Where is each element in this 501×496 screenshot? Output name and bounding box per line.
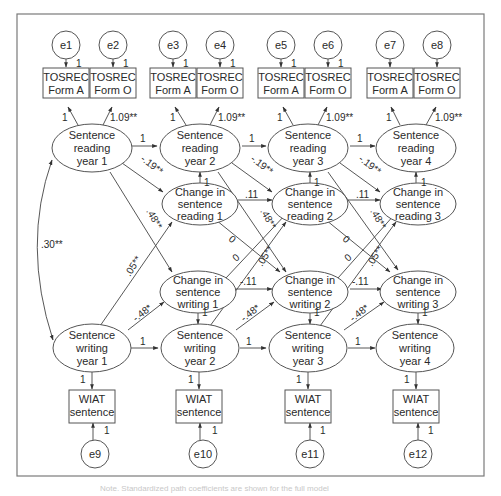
svg-text:reading 2: reading 2 (287, 210, 333, 222)
svg-text:year 3: year 3 (293, 155, 324, 167)
svg-text:1: 1 (296, 374, 302, 385)
sentence-writing-year-3[interactable]: Sentencewritingyear 3 (269, 324, 347, 372)
svg-text:writing: writing (398, 342, 431, 354)
error-node-e3[interactable]: e3 (159, 31, 187, 59)
error-node-e12[interactable]: e12 (404, 440, 432, 468)
error-node-e5[interactable]: e5 (267, 31, 295, 59)
sentence-reading-year-1[interactable]: Sentencereadingyear 1 (52, 124, 132, 172)
sentence-writing-year-2[interactable]: Sentencewritingyear 2 (161, 324, 239, 372)
svg-text:e3: e3 (167, 39, 179, 51)
svg-text:writing 3: writing 3 (397, 298, 439, 310)
svg-text:1: 1 (80, 374, 86, 385)
change-in-sentence-reading-3[interactable]: Change insentencereading 3 (380, 183, 456, 225)
svg-text:Form O: Form O (418, 84, 456, 96)
error-node-e6[interactable]: e6 (314, 31, 342, 59)
error-node-e9[interactable]: e9 (81, 440, 109, 468)
svg-text:1: 1 (62, 112, 68, 123)
svg-text:Form A: Form A (372, 84, 408, 96)
tosrec-box-3[interactable]: TOSRECForm A (150, 68, 196, 98)
tosrec-box-4[interactable]: TOSRECForm O (197, 68, 243, 98)
svg-text:1: 1 (202, 307, 208, 318)
change-in-sentence-writing-3[interactable]: Change insentencewriting 3 (380, 271, 456, 313)
svg-text:Change in: Change in (393, 186, 443, 198)
bottom-error-terms: e9 e10 e11 e12 (81, 440, 432, 468)
change-in-sentence-writing-2[interactable]: Change insentencewriting 2 (272, 271, 348, 313)
svg-text:1: 1 (386, 112, 392, 123)
svg-text:1: 1 (246, 336, 252, 347)
svg-text:writing: writing (291, 342, 324, 354)
error-node-e1[interactable]: e1 (52, 31, 80, 59)
wiat-box-4[interactable]: WIATsentence (393, 390, 439, 423)
sentence-writing-year-4[interactable]: Sentencewritingyear 4 (376, 324, 454, 372)
svg-text:sentence: sentence (177, 406, 222, 418)
error-node-e4[interactable]: e4 (206, 31, 234, 59)
svg-text:e1: e1 (60, 39, 72, 51)
svg-text:sentence: sentence (288, 198, 333, 210)
tosrec-box-2[interactable]: TOSRECForm O (90, 68, 136, 98)
svg-text:writing: writing (183, 342, 216, 354)
svg-text:1: 1 (314, 177, 320, 188)
figure-caption: Note. Standardized path coefficients are… (100, 484, 500, 494)
svg-text:e2: e2 (107, 39, 119, 51)
change-in-sentence-reading-2[interactable]: Change insentencereading 2 (272, 183, 348, 225)
svg-text:e4: e4 (214, 39, 226, 51)
error-loading-labels: 1 1 1 1 1 1 (76, 58, 344, 69)
tosrec-box-7[interactable]: TOSRECForm A (367, 68, 413, 98)
svg-text:1: 1 (277, 112, 283, 123)
error-node-e10[interactable]: e10 (189, 440, 217, 468)
svg-text:1: 1 (140, 133, 146, 144)
tosrec-box-5[interactable]: TOSRECForm A (258, 68, 304, 98)
svg-text:1: 1 (212, 425, 218, 436)
svg-text:year 2: year 2 (185, 355, 216, 367)
svg-text:year 1: year 1 (77, 355, 108, 367)
svg-text:-.48*: -.48* (238, 302, 262, 324)
sentence-reading-year-2[interactable]: Sentencereadingyear 2 (160, 124, 240, 172)
svg-text:Sentence: Sentence (69, 129, 115, 141)
svg-text:0: 0 (341, 233, 353, 245)
svg-text:Change in: Change in (393, 274, 443, 286)
svg-text:sentence: sentence (396, 286, 441, 298)
tosrec-box-8[interactable]: TOSRECForm O (414, 68, 460, 98)
svg-text:TOSREC: TOSREC (150, 71, 196, 83)
svg-text:e8: e8 (431, 39, 443, 51)
sentence-reading-year-3[interactable]: Sentencereadingyear 3 (268, 124, 348, 172)
wiat-box-2[interactable]: WIATsentence (176, 390, 222, 423)
svg-text:1.09**: 1.09** (326, 112, 353, 123)
svg-text:1: 1 (428, 425, 434, 436)
error-node-e11[interactable]: e11 (296, 440, 324, 468)
svg-text:Change in: Change in (175, 186, 225, 198)
change-in-sentence-reading-1[interactable]: Change insentencereading 1 (162, 183, 238, 225)
sentence-reading-year-4[interactable]: Sentencereadingyear 4 (376, 124, 456, 172)
tosrec-box-1[interactable]: TOSRECForm A (43, 68, 89, 98)
tosrec-indicators: TOSRECForm A TOSRECForm O TOSRECForm A T… (43, 68, 460, 98)
svg-text:Form O: Form O (309, 84, 347, 96)
svg-text:.48**: .48** (144, 207, 164, 231)
wiat-box-1[interactable]: WIATsentence (69, 390, 115, 423)
svg-text:writing 1: writing 1 (177, 298, 219, 310)
error-node-e7[interactable]: e7 (376, 31, 404, 59)
svg-text:.05**: .05** (254, 244, 275, 268)
svg-text:1: 1 (355, 336, 361, 347)
svg-text:Form A: Form A (48, 84, 84, 96)
svg-text:1: 1 (140, 336, 146, 347)
svg-text:e7: e7 (384, 39, 396, 51)
tosrec-box-6[interactable]: TOSRECForm O (305, 68, 351, 98)
svg-text:e12: e12 (409, 448, 427, 460)
svg-text:Sentence: Sentence (285, 129, 331, 141)
reading-change-latents: Change insentencereading 1 Change insent… (162, 183, 456, 225)
svg-text:-.19**: -.19** (139, 153, 166, 177)
error-node-e8[interactable]: e8 (423, 31, 451, 59)
svg-text:Form A: Form A (263, 84, 299, 96)
svg-text:reading: reading (290, 142, 327, 154)
sentence-writing-year-1[interactable]: Sentencewritingyear 1 (53, 324, 131, 372)
svg-text:reading: reading (74, 142, 111, 154)
svg-text:Form A: Form A (155, 84, 191, 96)
wiat-box-3[interactable]: WIATsentence (285, 390, 331, 423)
svg-text:year 3: year 3 (293, 355, 324, 367)
svg-text:0: 0 (230, 251, 242, 263)
svg-text:Form O: Form O (94, 84, 132, 96)
svg-text:sentence: sentence (288, 286, 333, 298)
change-in-sentence-writing-1[interactable]: Change insentencewriting 1 (160, 271, 236, 313)
error-node-e2[interactable]: e2 (99, 31, 127, 59)
covariance-label: .30** (41, 239, 63, 250)
